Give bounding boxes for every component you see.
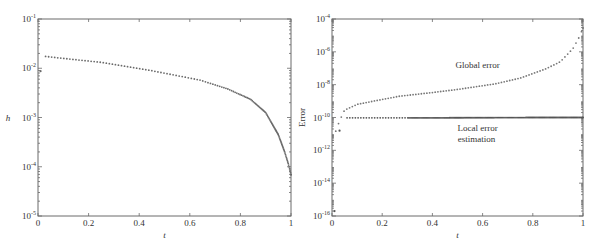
data-point <box>352 117 354 119</box>
x-tick-label: 0.4 <box>134 218 146 228</box>
data-point <box>467 87 469 89</box>
data-point <box>221 86 223 88</box>
data-point <box>139 68 141 70</box>
figure: 00.20.40.60.8110-110-210-310-410-5th 00.… <box>0 0 602 245</box>
data-point <box>127 66 129 68</box>
data-point <box>157 71 159 73</box>
data-point <box>498 82 500 84</box>
data-point <box>108 63 110 65</box>
data-point <box>199 79 201 81</box>
data-point <box>396 117 398 119</box>
data-point <box>398 95 400 97</box>
x-tick-label: 1 <box>581 218 586 228</box>
data-point <box>196 79 198 81</box>
x-tick-label: 0.4 <box>427 218 439 228</box>
data-point <box>151 70 153 72</box>
data-point <box>550 65 552 67</box>
data-point <box>365 117 367 119</box>
data-point <box>376 100 378 102</box>
data-point <box>51 56 53 58</box>
x-tick-label: 0.8 <box>235 218 247 228</box>
data-point <box>169 73 171 75</box>
data-point <box>365 102 367 104</box>
data-point <box>335 130 337 132</box>
data-point <box>476 86 478 88</box>
data-point <box>357 117 359 119</box>
data-point <box>343 110 345 112</box>
data-point <box>175 75 177 77</box>
data-point <box>393 117 395 119</box>
data-point <box>377 117 379 119</box>
x-axis-label: t <box>456 230 459 240</box>
data-point <box>99 61 101 63</box>
data-point <box>517 78 519 80</box>
data-point <box>66 58 68 60</box>
data-point <box>338 123 340 125</box>
data-point <box>287 163 289 165</box>
data-point <box>236 92 238 94</box>
data-point <box>432 92 434 94</box>
data-point <box>231 90 233 92</box>
data-point <box>239 94 241 96</box>
data-point <box>388 117 390 119</box>
data-point <box>492 83 494 85</box>
data-point <box>567 53 569 55</box>
data-point <box>545 68 547 70</box>
data-point <box>351 106 353 108</box>
data-point <box>396 96 398 98</box>
data-point <box>130 66 132 68</box>
data-point <box>210 83 212 85</box>
data-point <box>553 64 555 66</box>
data-point <box>536 71 538 73</box>
data-point <box>454 89 456 91</box>
data-point <box>399 117 401 119</box>
data-point <box>434 91 436 93</box>
data-point <box>547 67 549 69</box>
data-point <box>78 59 80 61</box>
data-point <box>87 60 89 62</box>
data-point <box>136 67 138 69</box>
data-point <box>503 81 505 83</box>
plot-frame <box>38 19 291 216</box>
data-point <box>437 91 439 93</box>
data-point <box>290 172 292 174</box>
data-point <box>96 61 98 63</box>
data-point <box>289 170 291 172</box>
y-tick-label: 10-4 <box>22 161 36 172</box>
data-point <box>531 73 533 75</box>
data-point <box>142 68 144 70</box>
data-point <box>223 87 225 89</box>
data-point <box>338 130 340 132</box>
data-point <box>582 27 584 29</box>
y-tick-label: 10-8 <box>316 79 330 90</box>
data-point <box>478 85 480 87</box>
data-point <box>423 93 425 95</box>
data-point <box>390 117 392 119</box>
data-point <box>212 83 214 85</box>
data-point <box>360 103 362 105</box>
data-point <box>145 69 147 71</box>
data-point <box>523 76 525 78</box>
data-point <box>418 93 420 95</box>
data-point <box>415 93 417 95</box>
data-point <box>289 168 291 170</box>
data-point <box>166 73 168 75</box>
data-point <box>409 94 411 96</box>
plot-step-size: 00.20.40.60.8110-110-210-310-410-5th <box>6 13 294 240</box>
data-point <box>333 210 335 212</box>
data-point <box>75 59 77 61</box>
data-point <box>232 91 234 93</box>
data-point <box>148 69 150 71</box>
data-point <box>514 78 516 80</box>
data-point <box>371 101 373 103</box>
data-point <box>412 94 414 96</box>
data-point <box>429 92 431 94</box>
data-point <box>426 92 428 94</box>
data-point <box>368 117 370 119</box>
data-point <box>354 104 356 106</box>
data-point <box>360 117 362 119</box>
data-point <box>154 70 156 72</box>
data-point <box>401 117 403 119</box>
data-point <box>178 75 180 77</box>
y-tick-label: 10-2 <box>22 62 36 73</box>
